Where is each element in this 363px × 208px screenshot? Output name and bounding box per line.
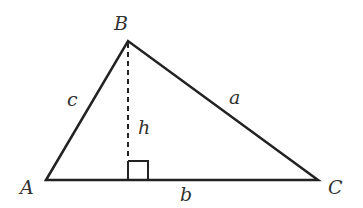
altitude-label-h: h <box>138 116 150 138</box>
right-angle-marker <box>128 161 148 180</box>
vertex-label-a: A <box>18 176 34 198</box>
side-label-b: b <box>180 183 192 205</box>
triangle-diagram: B A C c a h b <box>0 0 363 208</box>
side-label-a: a <box>229 86 240 108</box>
vertex-label-b: B <box>113 12 128 34</box>
vertex-label-c: C <box>328 176 343 198</box>
side-label-c: c <box>67 88 78 110</box>
triangle-abc <box>46 41 318 180</box>
